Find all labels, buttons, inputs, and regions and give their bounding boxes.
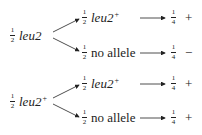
genotype-label: leu2 bbox=[19, 29, 41, 42]
allele-label: leu2 bbox=[91, 11, 113, 24]
result-quarter-plus: 14 + bbox=[171, 9, 192, 26]
phenotype: + bbox=[185, 111, 192, 124]
fraction: 14 bbox=[171, 9, 176, 26]
branch-no-allele: 12 no allele bbox=[82, 109, 135, 126]
fraction: 12 bbox=[10, 93, 15, 110]
fraction: 14 bbox=[171, 75, 176, 92]
branch-arrow-down-icon bbox=[53, 104, 79, 117]
fraction: 14 bbox=[171, 44, 176, 61]
branch-no-allele: 12 no allele bbox=[82, 44, 135, 61]
branch-allele-leu2-plus: 12 leu2+ bbox=[82, 75, 119, 92]
branch-arrow-up-icon bbox=[53, 19, 79, 32]
fraction: 12 bbox=[82, 109, 87, 126]
branch-arrow-up-icon bbox=[53, 85, 79, 98]
fraction: 12 bbox=[82, 9, 87, 26]
source-genotype-leu2: 12 leu2 bbox=[10, 27, 41, 44]
branch-allele-leu2-plus: 12 leu2+ bbox=[82, 9, 119, 26]
allele-label: no allele bbox=[91, 111, 135, 124]
superscript: + bbox=[114, 11, 119, 19]
fraction: 12 bbox=[82, 44, 87, 61]
allele-label: no allele bbox=[91, 46, 135, 59]
allele-label: leu2 bbox=[91, 77, 113, 90]
source-genotype-leu2-plus: 12 leu2+ bbox=[10, 93, 47, 110]
phenotype: + bbox=[185, 11, 192, 24]
phenotype: − bbox=[185, 46, 192, 59]
fraction: 14 bbox=[171, 109, 176, 126]
result-quarter-minus: 14 − bbox=[171, 44, 192, 61]
branch-arrow-down-icon bbox=[53, 38, 79, 51]
genotype-label: leu2 bbox=[19, 95, 41, 108]
phenotype: + bbox=[185, 77, 192, 90]
superscript: + bbox=[114, 77, 119, 85]
superscript: + bbox=[42, 95, 47, 103]
fraction: 12 bbox=[82, 75, 87, 92]
result-quarter-plus: 14 + bbox=[171, 109, 192, 126]
fraction: 12 bbox=[10, 27, 15, 44]
result-quarter-plus: 14 + bbox=[171, 75, 192, 92]
